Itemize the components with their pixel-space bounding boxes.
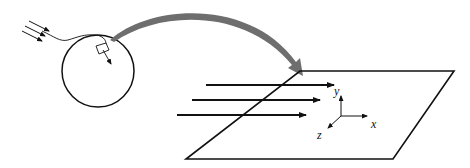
surface-patch: [96, 43, 109, 54]
refracted-ray: [103, 50, 111, 64]
coordinate-frame: y x z: [316, 84, 377, 142]
incoming-rays: [22, 21, 49, 41]
plane-rays: [177, 85, 334, 115]
z-axis-label: z: [316, 128, 322, 142]
x-axis-label: x: [370, 117, 377, 131]
diagram-canvas: y x z: [0, 0, 470, 168]
mapping-arrow: [110, 13, 303, 76]
y-axis-label: y: [333, 84, 340, 98]
z-axis: [328, 116, 341, 128]
